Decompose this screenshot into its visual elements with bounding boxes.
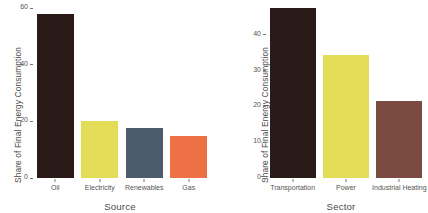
y-axis-tick-label: 60 xyxy=(20,3,28,10)
x-axis-tick-label: Oil xyxy=(51,184,60,191)
y-axis-tick-mark xyxy=(263,142,266,143)
x-axis-tick-mark xyxy=(188,179,189,182)
x-axis-tick-label: Transportation xyxy=(270,184,315,191)
y-axis-tick-label: 0 xyxy=(24,173,28,180)
y-axis-tick-mark xyxy=(263,106,266,107)
x-axis-title-left: Source xyxy=(30,201,210,212)
x-axis-tick-mark xyxy=(399,179,400,182)
chart-panel-sector: Share of Final Energy Consumption 010203… xyxy=(214,0,428,213)
y-axis-tick-label: 40 xyxy=(253,30,261,37)
x-axis-tick-mark xyxy=(345,179,346,182)
y-axis-tick-mark xyxy=(30,121,33,122)
bar-industrial-heating[interactable] xyxy=(376,101,422,178)
plot-area-right: 010203040TransportationPowerIndustrial H… xyxy=(266,8,426,178)
y-axis-tick-mark xyxy=(263,70,266,71)
y-axis-tick-mark xyxy=(263,34,266,35)
x-axis-tick-label: Industrial Heating xyxy=(372,184,426,191)
x-axis-tick-label: Renewables xyxy=(125,184,164,191)
y-axis-tick-mark xyxy=(263,178,266,179)
y-axis-title-left: Share of Final Energy Consumption xyxy=(13,0,26,183)
y-axis-tick-label: 30 xyxy=(253,66,261,73)
y-axis-tick-label: 0 xyxy=(257,173,261,180)
x-axis-tick-label: Electricity xyxy=(85,184,115,191)
x-axis-tick-label: Gas xyxy=(182,184,195,191)
x-axis-tick-mark xyxy=(292,179,293,182)
chart-panel-source: Share of Final Energy Consumption 020406… xyxy=(0,0,214,213)
y-axis-tick-label: 40 xyxy=(20,60,28,67)
y-axis-tick-label: 10 xyxy=(253,137,261,144)
bar-gas[interactable] xyxy=(170,136,207,179)
figure-two-bar-charts: Share of Final Energy Consumption 020406… xyxy=(0,0,428,213)
bar-transportation[interactable] xyxy=(270,8,316,178)
y-axis-tick-label: 20 xyxy=(20,116,28,123)
x-axis-title-right: Sector xyxy=(254,201,428,212)
y-axis-tick-mark xyxy=(30,8,33,9)
x-axis-tick-label: Power xyxy=(336,184,356,191)
bar-electricity[interactable] xyxy=(81,121,118,178)
x-axis-tick-mark xyxy=(55,179,56,182)
bar-oil[interactable] xyxy=(37,14,74,178)
x-axis-tick-mark xyxy=(144,179,145,182)
x-axis-tick-mark xyxy=(99,179,100,182)
y-axis-tick-label: 20 xyxy=(253,101,261,108)
y-axis-tick-mark xyxy=(30,64,33,65)
bar-power[interactable] xyxy=(323,55,369,178)
y-axis-tick-mark xyxy=(30,178,33,179)
plot-area-left: 0204060OilElectricityRenewablesGas xyxy=(33,8,211,178)
bar-renewables[interactable] xyxy=(126,128,163,178)
